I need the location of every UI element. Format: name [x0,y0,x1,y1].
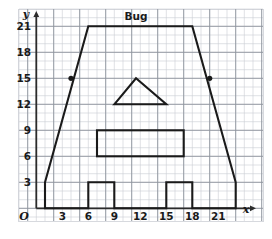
x-tick-labels: 3 6 9 12 15 18 21 [59,210,226,222]
x-tick-21: 21 [211,210,226,222]
bug-coordinate-grid-figure: Bug y x O 21 18 15 12 9 6 3 3 6 9 12 15 … [0,0,272,239]
figure-title: Bug [125,10,148,22]
y-tick-3: 3 [24,176,31,188]
x-tick-6: 6 [85,210,92,222]
axis-lines [33,11,256,211]
x-tick-18: 18 [185,210,200,222]
y-tick-12: 12 [16,98,31,110]
y-axis-arrow-icon [33,11,39,17]
y-tick-9: 9 [24,124,31,136]
x-axis-label: x [242,203,250,216]
y-tick-21: 21 [16,20,31,32]
grid-minor-lines [19,9,263,221]
x-tick-15: 15 [159,210,174,222]
y-tick-15: 15 [16,72,31,84]
y-tick-6: 6 [24,150,31,162]
coordinate-plane-svg: Bug y x O 21 18 15 12 9 6 3 3 6 9 12 15 … [0,0,272,239]
x-tick-9: 9 [111,210,118,222]
bug-right-eye-dot [207,76,212,81]
x-tick-3: 3 [59,210,66,222]
origin-label: O [19,210,29,223]
x-tick-12: 12 [133,210,148,222]
y-tick-18: 18 [16,46,31,58]
bug-left-eye-dot [68,76,73,81]
grid-major-lines [19,9,263,221]
